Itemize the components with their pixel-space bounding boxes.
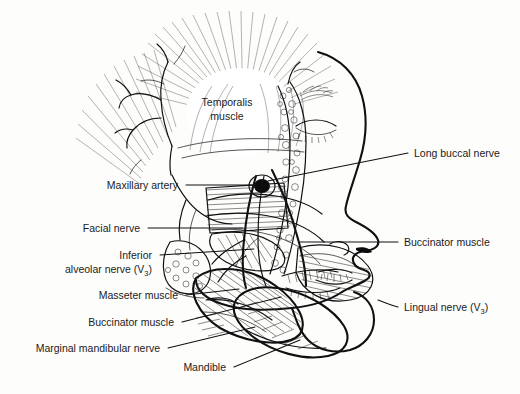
label-mandible: Mandible [183, 361, 226, 373]
label-inferior-alveolar-nerve-line1: Inferior [119, 249, 152, 261]
label-temporalis-muscle-line1: Temporalis [202, 96, 253, 108]
anatomy-illustration: Lateral view of head showing muscles of … [0, 0, 520, 394]
label-buccinator-muscle-left: Buccinator muscle [88, 316, 174, 328]
label-buccinator-muscle-right: Buccinator muscle [404, 236, 490, 248]
label-maxillary-artery: Maxillary artery [107, 179, 179, 191]
label-temporalis-muscle-line2: muscle [210, 110, 243, 122]
ian-text: alveolar nerve (V [65, 263, 144, 275]
lingual-paren: ) [485, 301, 489, 313]
label-marginal-mandibular-nerve: Marginal mandibular nerve [36, 342, 160, 354]
label-masseter-muscle: Masseter muscle [99, 289, 179, 301]
label-facial-nerve: Facial nerve [83, 222, 140, 234]
lingual-text: Lingual nerve (V [404, 301, 480, 313]
label-long-buccal-nerve: Long buccal nerve [414, 147, 500, 159]
anatomy-figure: Lateral view of head showing muscles of … [0, 0, 520, 394]
ian-paren: ) [149, 263, 153, 275]
